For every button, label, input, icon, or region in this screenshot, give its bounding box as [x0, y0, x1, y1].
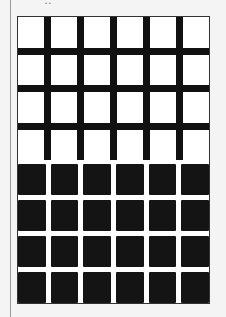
- white-square: [150, 55, 176, 86]
- white-square: [150, 92, 176, 123]
- black-square: [51, 236, 79, 267]
- white-square: [51, 130, 77, 161]
- white-square: [84, 92, 110, 123]
- white-square: [117, 92, 143, 123]
- black-square: [116, 236, 144, 267]
- black-square: [18, 164, 46, 195]
- white-square: [18, 92, 44, 123]
- black-square: [116, 164, 144, 195]
- black-square: [149, 164, 177, 195]
- black-square: [83, 272, 111, 303]
- black-square: [18, 272, 46, 303]
- white-square: [117, 17, 143, 48]
- black-square: [51, 200, 79, 231]
- black-squares-panel: [18, 160, 209, 303]
- white-squares-panel: [18, 17, 209, 160]
- black-square: [116, 200, 144, 231]
- page-margin-rule: [10, 0, 11, 317]
- scan-artifact-dots: • •: [45, 0, 51, 6]
- white-square: [150, 17, 176, 48]
- white-square: [183, 130, 209, 161]
- white-square: [183, 92, 209, 123]
- white-square: [84, 17, 110, 48]
- black-square: [181, 272, 209, 303]
- white-square: [84, 130, 110, 161]
- black-square: [149, 236, 177, 267]
- white-square: [18, 130, 44, 161]
- white-square: [51, 17, 77, 48]
- white-square: [117, 55, 143, 86]
- black-square: [116, 272, 144, 303]
- black-square: [18, 200, 46, 231]
- black-square: [149, 200, 177, 231]
- white-square: [183, 55, 209, 86]
- white-square: [183, 17, 209, 48]
- black-square: [83, 164, 111, 195]
- white-square: [51, 92, 77, 123]
- white-square: [18, 17, 44, 48]
- hermann-grid-figure: [17, 16, 210, 304]
- white-square: [150, 130, 176, 161]
- black-square: [51, 164, 79, 195]
- black-square: [181, 164, 209, 195]
- white-square: [51, 55, 77, 86]
- black-square: [181, 236, 209, 267]
- black-square: [83, 200, 111, 231]
- white-square: [84, 55, 110, 86]
- white-square: [117, 130, 143, 161]
- black-square: [181, 200, 209, 231]
- black-square: [149, 272, 177, 303]
- white-square: [18, 55, 44, 86]
- black-square: [83, 236, 111, 267]
- black-square: [51, 272, 79, 303]
- black-square: [18, 236, 46, 267]
